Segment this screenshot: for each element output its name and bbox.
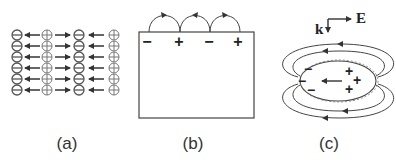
- field-arc-2: [180, 16, 210, 33]
- field-arc-3: [210, 16, 240, 33]
- negative-charge-icon: [12, 63, 22, 73]
- negative-charge-icon: [74, 52, 84, 62]
- arc-arrowhead-1: [161, 12, 167, 18]
- right-charge-1: +: [345, 63, 353, 79]
- field-arrowhead-2: [322, 48, 328, 54]
- field-arrowhead-4: [322, 115, 328, 121]
- positive-charge-icon: [42, 52, 52, 62]
- negative-charge-icon: [12, 30, 22, 40]
- arc-arrowhead-2: [192, 12, 198, 18]
- negative-charge-icon: [12, 85, 22, 95]
- negative-charge-icon: [74, 41, 84, 51]
- caption-c: (c): [319, 134, 339, 153]
- field-arrowhead-1: [337, 41, 343, 47]
- positive-charge-icon: [42, 63, 52, 73]
- field-arrowhead-3: [342, 108, 348, 114]
- negative-charge-icon: [12, 52, 22, 62]
- k-label: k: [315, 21, 324, 37]
- positive-charge-icon: [109, 74, 119, 84]
- positive-charge-icon: [109, 30, 119, 40]
- right-charge-3: +: [345, 81, 353, 97]
- diagram-canvas: − + − + k E − − − + + + (a) (b) (c: [0, 0, 396, 164]
- surface-charge-1: −: [142, 33, 151, 50]
- positive-charge-icon: [109, 63, 119, 73]
- right-charge-2: +: [353, 72, 361, 88]
- e-label: E: [356, 10, 366, 26]
- positive-charge-icon: [109, 85, 119, 95]
- field-arc-1: [149, 16, 180, 33]
- positive-charge-icon: [42, 74, 52, 84]
- panel-c-particle-dipole: k E − − − + + +: [283, 10, 394, 121]
- negative-charge-icon: [74, 30, 84, 40]
- surface-charge-4: +: [233, 33, 242, 50]
- negative-charge-icon: [74, 74, 84, 84]
- panel-a-dipole-lattice: [12, 30, 119, 95]
- caption-b: (b): [183, 134, 204, 153]
- negative-charge-icon: [12, 41, 22, 51]
- left-charge-2: −: [298, 73, 306, 89]
- surface-charge-3: −: [204, 33, 213, 50]
- negative-charge-icon: [12, 74, 22, 84]
- positive-charge-icon: [109, 41, 119, 51]
- positive-charge-icon: [42, 85, 52, 95]
- positive-charge-icon: [42, 41, 52, 51]
- surface-charge-2: +: [174, 33, 183, 50]
- negative-charge-icon: [74, 85, 84, 95]
- positive-charge-icon: [109, 52, 119, 62]
- caption-a: (a): [57, 134, 78, 153]
- panel-b-surface-charges: − + − +: [139, 12, 254, 118]
- left-charge-3: −: [307, 82, 315, 98]
- positive-charge-icon: [42, 30, 52, 40]
- negative-charge-icon: [74, 63, 84, 73]
- arc-arrowhead-3: [222, 12, 228, 18]
